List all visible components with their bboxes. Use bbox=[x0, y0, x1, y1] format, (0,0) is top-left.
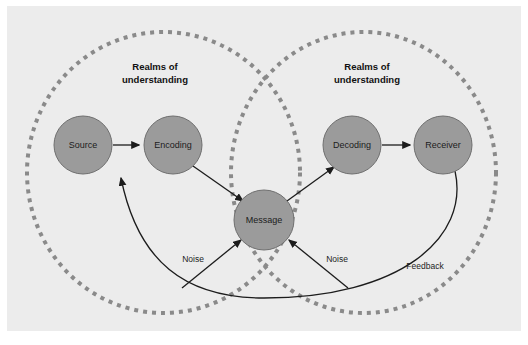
node-receiver-label: Receiver bbox=[425, 140, 461, 150]
realm-left-label-line1: Realms of bbox=[132, 61, 178, 72]
noise-right-line[interactable] bbox=[289, 240, 348, 288]
feedback-label: Feedback bbox=[406, 261, 444, 271]
diagram-canvas: Source Encoding Message Decoding Receive… bbox=[0, 0, 528, 345]
noise-left-label: Noise bbox=[182, 254, 204, 264]
node-encoding-label: Encoding bbox=[154, 140, 192, 150]
message-to-decoding-line[interactable] bbox=[287, 167, 334, 201]
noise-right-label: Noise bbox=[326, 254, 348, 264]
node-source-label: Source bbox=[69, 140, 98, 150]
realm-right-label-line2: understanding bbox=[334, 74, 400, 85]
realm-left-label-line2: understanding bbox=[122, 74, 188, 85]
realm-right-label-line1: Realms of bbox=[344, 61, 390, 72]
encoding-to-message-line[interactable] bbox=[193, 166, 243, 201]
node-decoding-label: Decoding bbox=[333, 140, 371, 150]
noise-left-line[interactable] bbox=[182, 240, 241, 288]
figure-root: Source Encoding Message Decoding Receive… bbox=[0, 0, 528, 345]
node-message-label: Message bbox=[246, 215, 283, 225]
